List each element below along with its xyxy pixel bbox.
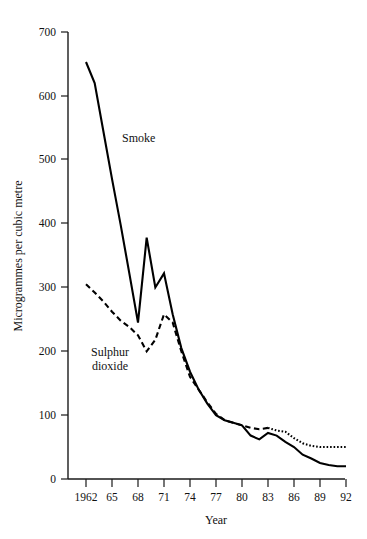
- x-tick-label-1974: 74: [184, 491, 196, 503]
- y-tick-label-100: 100: [39, 409, 57, 421]
- y-tick-label-200: 200: [39, 345, 57, 357]
- x-tick-label-1965: 65: [106, 491, 118, 503]
- so2-series-label-line2: dioxide: [92, 359, 128, 373]
- y-tick-marks: [61, 32, 68, 479]
- x-tick-label-1977: 77: [210, 491, 222, 503]
- x-tick-label-1983: 83: [262, 491, 274, 503]
- x-tick-labels: 1962 65 68 71 74 77 80 83 86 89 92: [75, 491, 353, 503]
- x-tick-label-1971: 71: [158, 491, 170, 503]
- smoke-series-line: [86, 62, 346, 466]
- y-tick-label-300: 300: [39, 281, 57, 293]
- axis-group: [68, 32, 345, 479]
- smoke-series-label: Smoke: [122, 131, 155, 145]
- y-tick-labels: 700 600 500 400 300 200 100 0: [39, 26, 57, 485]
- y-tick-label-500: 500: [39, 153, 57, 165]
- y-tick-label-400: 400: [39, 217, 57, 229]
- x-tick-label-1968: 68: [132, 491, 144, 503]
- pollution-line-chart: 700 600 500 400 300 200 100 0 1962 65: [0, 0, 367, 539]
- y-tick-label-600: 600: [39, 90, 57, 102]
- chart-svg: 700 600 500 400 300 200 100 0 1962 65: [0, 0, 367, 539]
- x-tick-label-1980: 80: [236, 491, 248, 503]
- x-tick-label-1962: 1962: [75, 491, 98, 503]
- so2-series-label-line1: Sulphur: [91, 345, 129, 359]
- y-axis-title: Microgrammes per cubic metre: [11, 181, 25, 332]
- x-axis-title: Year: [205, 513, 227, 527]
- y-tick-label-0: 0: [50, 473, 56, 485]
- x-tick-marks: [86, 479, 346, 487]
- x-tick-label-1992: 92: [340, 491, 352, 503]
- x-tick-label-1986: 86: [288, 491, 300, 503]
- y-tick-label-700: 700: [39, 26, 57, 38]
- x-tick-label-1989: 89: [314, 491, 326, 503]
